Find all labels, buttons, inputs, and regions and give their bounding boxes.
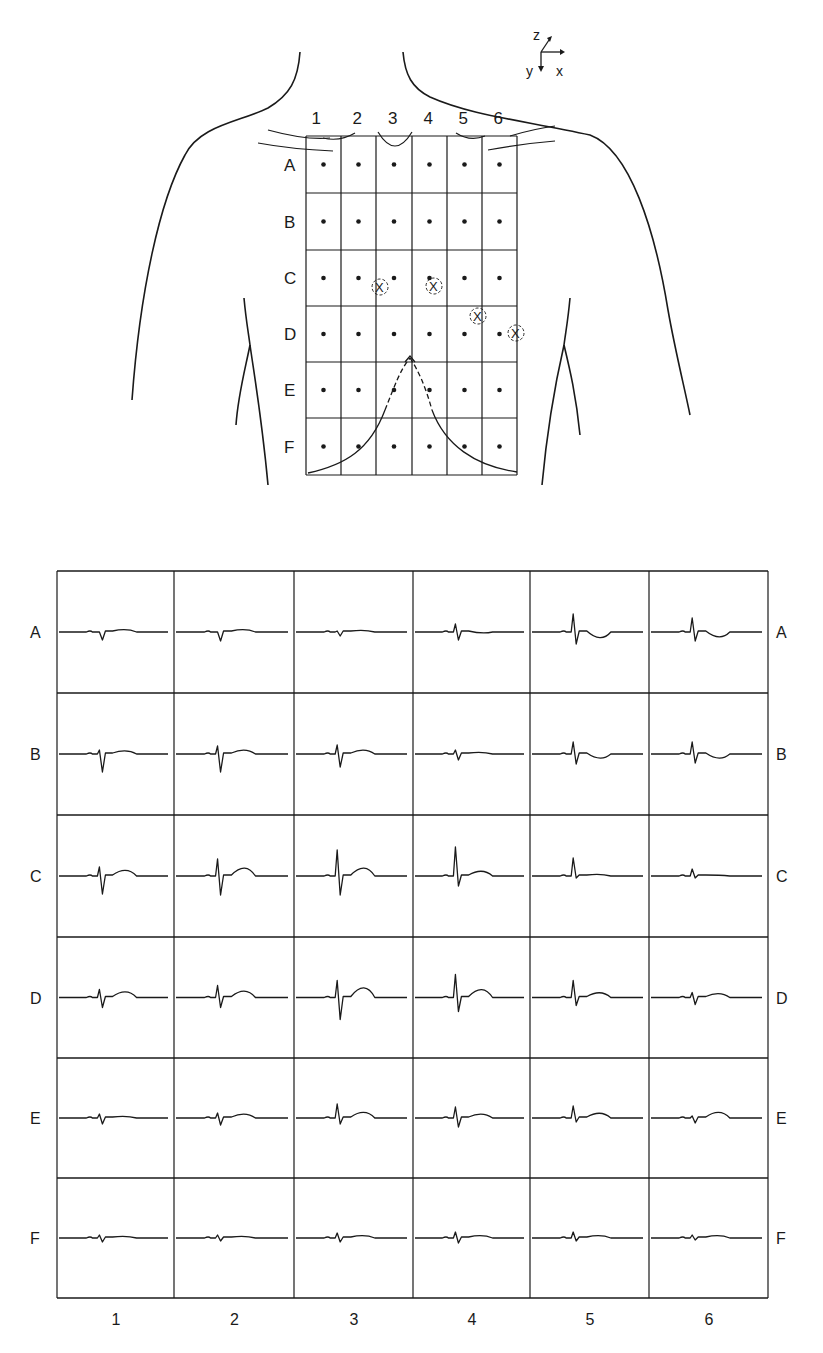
ecg-trace <box>296 1233 407 1242</box>
ecg-trace <box>296 981 407 1020</box>
ecg-trace <box>296 1104 407 1124</box>
ecg-trace <box>415 624 524 640</box>
marked-position-label: X <box>375 280 384 295</box>
electrode-dot <box>321 444 326 449</box>
electrode-dot <box>462 388 467 393</box>
row-label-left: E <box>30 1110 41 1127</box>
ecg-trace <box>59 867 168 894</box>
ecg-trace <box>176 630 288 641</box>
electrode-dot <box>356 162 361 167</box>
electrode-dot <box>427 388 432 393</box>
electrode-dot <box>462 276 467 281</box>
ecg-trace <box>532 1232 643 1241</box>
ecg-trace <box>59 750 168 772</box>
ecg-trace <box>296 850 407 895</box>
row-label-left: B <box>30 746 41 763</box>
electrode-dot <box>497 162 502 167</box>
row-label: D <box>284 325 296 344</box>
ecg-trace <box>651 742 762 763</box>
electrode-dot <box>321 219 326 224</box>
row-label: E <box>284 381 295 400</box>
row-label-right: A <box>776 624 787 641</box>
electrode-dot <box>392 276 397 281</box>
row-label-left: F <box>30 1230 40 1247</box>
ecg-trace <box>532 1106 643 1122</box>
ecg-trace <box>651 618 762 641</box>
axis-x-label: x <box>556 63 563 79</box>
electrode-dot <box>497 332 502 337</box>
electrode-dot <box>321 162 326 167</box>
electrode-dot <box>356 276 361 281</box>
ecg-trace <box>59 1114 168 1124</box>
electrode-dot <box>392 444 397 449</box>
electrode-dot <box>497 388 502 393</box>
electrode-dot <box>356 219 361 224</box>
row-label-right: E <box>776 1110 787 1127</box>
electrode-dot <box>497 444 502 449</box>
electrode-dot <box>321 276 326 281</box>
ecg-trace <box>176 746 288 772</box>
electrode-dot <box>462 162 467 167</box>
ecg-trace <box>532 858 643 878</box>
row-label-left: D <box>30 990 42 1007</box>
column-label-bottom: 6 <box>705 1311 714 1328</box>
ecg-trace <box>651 1235 762 1240</box>
ecg-trace <box>651 993 762 1005</box>
column-label-bottom: 4 <box>468 1311 477 1328</box>
clavicle-marks <box>258 126 555 151</box>
ecg-trace <box>176 859 288 895</box>
ecg-trace <box>176 1235 288 1241</box>
electrode-dot <box>392 219 397 224</box>
ecg-trace <box>415 1107 524 1127</box>
figure-canvas: z y x 123456ABCDEFXXXX AABBCCDDEEFF12345… <box>0 0 823 1353</box>
marked-position-label: X <box>511 326 520 341</box>
row-label: B <box>284 213 295 232</box>
column-label: 1 <box>312 109 321 128</box>
row-label: C <box>284 269 296 288</box>
column-label: 6 <box>494 109 503 128</box>
electrode-dot <box>462 219 467 224</box>
row-label-right: B <box>776 746 787 763</box>
waveform-grid: AABBCCDDEEFF123456 <box>30 571 788 1328</box>
column-label: 4 <box>424 109 433 128</box>
axis-y-label: y <box>526 63 533 79</box>
ecg-trace <box>296 745 407 767</box>
ecg-trace <box>651 1112 762 1123</box>
column-label-bottom: 5 <box>586 1311 595 1328</box>
column-label-bottom: 1 <box>112 1311 121 1328</box>
ecg-trace <box>415 750 524 760</box>
electrode-dot <box>321 388 326 393</box>
row-label-left: A <box>30 624 41 641</box>
column-label-bottom: 2 <box>230 1311 239 1328</box>
marked-position-label: X <box>429 279 438 294</box>
ecg-trace <box>415 975 524 1012</box>
electrode-dot <box>462 444 467 449</box>
ecg-trace <box>532 981 643 1006</box>
column-label: 3 <box>388 109 397 128</box>
electrode-dot <box>392 162 397 167</box>
electrode-dot <box>427 332 432 337</box>
electrode-dot <box>427 219 432 224</box>
column-label: 5 <box>459 109 468 128</box>
column-label-bottom: 3 <box>350 1311 359 1328</box>
row-label-right: D <box>776 990 788 1007</box>
electrode-dot <box>356 332 361 337</box>
electrode-dot <box>427 444 432 449</box>
electrode-dot <box>321 332 326 337</box>
column-label: 2 <box>353 109 362 128</box>
ecg-trace <box>59 990 168 1008</box>
row-label: A <box>284 156 296 175</box>
ecg-trace <box>532 614 643 644</box>
ecg-trace <box>176 986 288 1008</box>
axes-icon: z y x <box>526 27 565 79</box>
ecg-trace <box>296 630 407 636</box>
ecg-trace <box>532 742 643 764</box>
ecg-trace <box>651 869 762 878</box>
row-label-left: C <box>30 868 42 885</box>
row-label-right: C <box>776 868 788 885</box>
axis-z-label: z <box>533 27 540 43</box>
row-label: F <box>284 438 294 457</box>
electrode-grid: 123456ABCDEFXXXX <box>284 109 524 475</box>
torso-outline <box>132 52 690 485</box>
electrode-dot <box>462 332 467 337</box>
